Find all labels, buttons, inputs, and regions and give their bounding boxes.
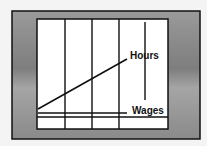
- wages-label: Wages: [132, 106, 164, 116]
- chart-illustration: [0, 0, 207, 146]
- hours-label: Hours: [130, 51, 159, 61]
